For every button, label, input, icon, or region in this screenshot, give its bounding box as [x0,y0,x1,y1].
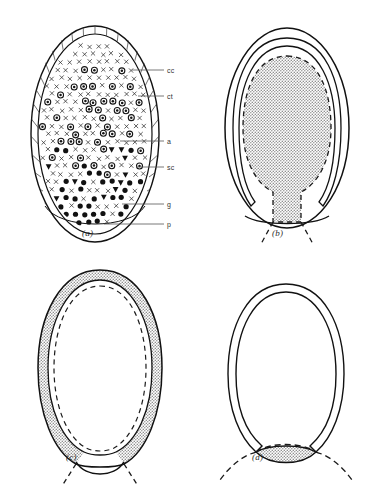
panel-b [205,16,370,252]
caption-panel-b: (b) [272,228,283,238]
caption-panel-c: (c) [66,452,77,462]
panel-d [198,256,373,488]
label-cc: cc [167,67,174,74]
label-p: p [167,221,171,228]
caption-panel-a: (a) [82,228,93,238]
panel-a-inner-outline [38,34,152,234]
panel-c-inner-outline [48,280,152,455]
label-a: a [167,138,171,145]
panel-c-dashed-boundary [54,286,146,451]
panel-d-shaded-lens [256,446,316,463]
figure-root: cc ct a sc g p (a) (b) (c) (d) [0,0,375,492]
panel-c [12,256,187,488]
panel-c-base-line [76,462,124,474]
label-ct: ct [167,93,173,100]
panel-a [20,16,190,252]
panel-c-shaded-ring [38,270,162,464]
caption-panel-d: (d) [252,452,263,462]
panel-d-outer-outline [228,284,344,452]
label-g: g [167,201,171,208]
label-sc: sc [167,164,174,171]
